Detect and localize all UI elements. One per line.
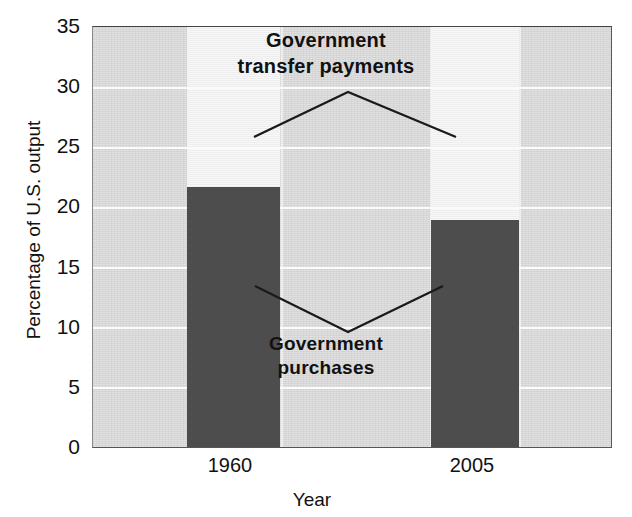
bar-purchases-1960[interactable] xyxy=(187,187,280,447)
gridline-5 xyxy=(93,387,611,389)
annotation-purchases-line2: purchases xyxy=(216,356,436,380)
annotation-transfer-line2: transfer payments xyxy=(206,54,446,80)
plot-area xyxy=(92,26,612,448)
gridline-10 xyxy=(93,327,611,329)
y-tick-30: 30 xyxy=(34,74,80,98)
annotation-purchases-line1: Government xyxy=(216,332,436,356)
x-tick-1960: 1960 xyxy=(170,454,290,477)
annotation-transfer-line1: Government xyxy=(206,28,446,54)
y-tick-5: 5 xyxy=(34,375,80,399)
annotation-transfer-payments: Government transfer payments xyxy=(206,28,446,79)
vertical-grid-4 xyxy=(519,27,521,447)
gridline-30 xyxy=(93,87,611,89)
gridline-15 xyxy=(93,267,611,269)
vertical-grid-2 xyxy=(281,27,283,447)
gridline-25 xyxy=(93,147,611,149)
y-axis-title: Percentage of U.S. output xyxy=(23,100,45,360)
x-tick-2005: 2005 xyxy=(412,454,532,477)
bar-purchases-2005[interactable] xyxy=(431,220,519,447)
annotation-government-purchases: Government purchases xyxy=(216,332,436,381)
chart-figure: Government transfer payments Government … xyxy=(0,0,632,517)
y-tick-35: 35 xyxy=(34,14,80,38)
plot-texture xyxy=(93,27,611,447)
y-tick-0: 0 xyxy=(34,435,80,459)
gridline-20 xyxy=(93,207,611,209)
x-axis-title: Year xyxy=(232,489,392,511)
